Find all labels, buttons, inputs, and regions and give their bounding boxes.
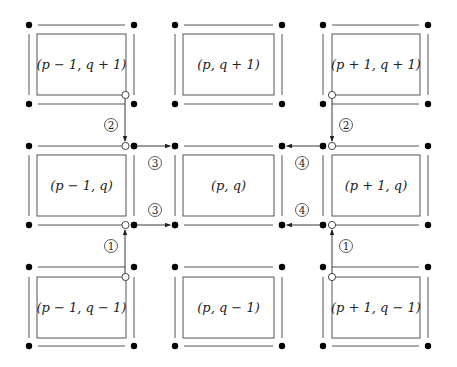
corner-node bbox=[172, 22, 178, 28]
cell-p-q-minus-1: (p, q − 1) bbox=[172, 264, 285, 349]
corner-node bbox=[26, 22, 32, 28]
corner-node bbox=[425, 222, 431, 228]
cell-p-minus-1-q-minus-1: (p − 1, q − 1) bbox=[26, 264, 137, 349]
step-3-bottom-label: 3 bbox=[149, 204, 162, 217]
svg-text:1: 1 bbox=[108, 240, 115, 252]
corner-node bbox=[320, 343, 326, 349]
cell-label: (p − 1, q + 1) bbox=[37, 57, 127, 72]
corner-node bbox=[172, 343, 178, 349]
corner-node bbox=[320, 222, 326, 228]
cell-label: (p + 1, q + 1) bbox=[331, 57, 421, 72]
cell-p-plus-1-q-minus-1: (p + 1, q − 1) bbox=[320, 264, 431, 349]
cell-label: (p − 1, q − 1) bbox=[37, 300, 127, 315]
corner-node bbox=[279, 143, 285, 149]
svg-text:3: 3 bbox=[152, 157, 159, 169]
corner-node bbox=[172, 222, 178, 228]
corner-node bbox=[425, 264, 431, 270]
step-1-right-arrow bbox=[328, 221, 335, 280]
corner-node bbox=[131, 222, 137, 228]
corner-node bbox=[131, 143, 137, 149]
source-port bbox=[122, 91, 129, 98]
target-port bbox=[328, 142, 335, 149]
target-port bbox=[122, 221, 129, 228]
corner-node bbox=[26, 264, 32, 270]
step-4-top-label: 4 bbox=[296, 157, 309, 170]
step-4-bottom-label: 4 bbox=[296, 204, 309, 217]
corner-node bbox=[26, 101, 32, 107]
corner-node bbox=[320, 101, 326, 107]
cell-p-q-plus-1: (p, q + 1) bbox=[172, 22, 285, 107]
corner-node bbox=[172, 101, 178, 107]
corner-node bbox=[320, 143, 326, 149]
step-2-left-arrow bbox=[122, 91, 129, 149]
corner-node bbox=[131, 22, 137, 28]
cell-p-minus-1-q: (p − 1, q) bbox=[26, 143, 137, 228]
cell-p-plus-1-q-plus-1: (p + 1, q + 1) bbox=[320, 22, 431, 107]
svg-text:3: 3 bbox=[152, 204, 159, 216]
cell-p-q: (p, q) bbox=[172, 143, 285, 228]
svg-text:1: 1 bbox=[343, 240, 350, 252]
source-port bbox=[328, 91, 335, 98]
svg-text:4: 4 bbox=[299, 157, 306, 169]
source-port bbox=[122, 273, 129, 280]
target-port bbox=[122, 142, 129, 149]
corner-node bbox=[425, 143, 431, 149]
step-1-left-arrow bbox=[122, 221, 129, 280]
cell-label: (p, q) bbox=[211, 178, 246, 193]
corner-node bbox=[425, 22, 431, 28]
corner-node bbox=[425, 343, 431, 349]
corner-node bbox=[320, 264, 326, 270]
step-2-right-arrow bbox=[328, 91, 335, 149]
corner-node bbox=[425, 101, 431, 107]
corner-node bbox=[279, 343, 285, 349]
svg-text:4: 4 bbox=[299, 204, 306, 216]
step-1-right-label: 1 bbox=[340, 240, 353, 253]
target-port bbox=[328, 221, 335, 228]
cell-label: (p, q + 1) bbox=[197, 57, 259, 72]
step-1-left-label: 1 bbox=[105, 240, 118, 253]
corner-node bbox=[279, 101, 285, 107]
corner-node bbox=[279, 222, 285, 228]
cell-label: (p + 1, q − 1) bbox=[331, 300, 421, 315]
grid-diagram: (p − 1, q + 1) (p, q + 1) (p + 1, q + 1) bbox=[0, 0, 457, 367]
step-2-right-label: 2 bbox=[340, 119, 353, 132]
cell-label: (p − 1, q) bbox=[50, 178, 112, 193]
corner-node bbox=[131, 264, 137, 270]
cell-label: (p, q − 1) bbox=[197, 300, 259, 315]
step-3-top-label: 3 bbox=[149, 157, 162, 170]
corner-node bbox=[26, 222, 32, 228]
corner-node bbox=[172, 264, 178, 270]
corner-node bbox=[279, 264, 285, 270]
svg-text:2: 2 bbox=[108, 119, 115, 131]
corner-node bbox=[26, 143, 32, 149]
source-port bbox=[328, 273, 335, 280]
cell-label: (p + 1, q) bbox=[345, 178, 407, 193]
step-2-left-label: 2 bbox=[105, 119, 118, 132]
corner-node bbox=[26, 343, 32, 349]
svg-text:2: 2 bbox=[343, 119, 350, 131]
corner-node bbox=[172, 143, 178, 149]
corner-node bbox=[320, 22, 326, 28]
corner-node bbox=[131, 101, 137, 107]
cell-p-minus-1-q-plus-1: (p − 1, q + 1) bbox=[26, 22, 137, 107]
corner-node bbox=[131, 343, 137, 349]
diagram-canvas: (p − 1, q + 1) (p, q + 1) (p + 1, q + 1) bbox=[0, 0, 457, 367]
corner-node bbox=[279, 22, 285, 28]
cell-p-plus-1-q: (p + 1, q) bbox=[320, 143, 431, 228]
